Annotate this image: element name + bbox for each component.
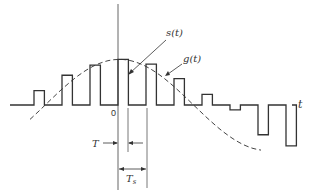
sample-pulse — [90, 65, 100, 105]
sample-pulse — [118, 59, 128, 105]
pulse-width-arrowhead-right-icon — [128, 141, 133, 145]
sample-pulse — [230, 105, 240, 110]
sample-pulse — [286, 105, 296, 146]
pulse-group — [34, 59, 296, 145]
pulse-width-arrowhead-left-icon — [113, 141, 118, 145]
sampling-period-arrowhead-right-icon — [141, 167, 146, 171]
origin-label: 0 — [111, 108, 116, 118]
continuous-signal-pointer — [168, 64, 182, 74]
sampled-signal-diagram: t 0 s(t) g(t) T Ts — [0, 0, 310, 193]
sample-pulse — [258, 105, 268, 135]
sample-pulse — [202, 94, 212, 105]
sampling-period-label: Ts — [126, 173, 137, 186]
sample-pulse — [62, 75, 72, 105]
pulse-width-label: T — [92, 138, 100, 149]
sample-pulse — [34, 91, 44, 105]
continuous-signal-label: g(t) — [183, 53, 201, 64]
sampling-period-arrowhead-left-icon — [119, 167, 124, 171]
continuous-signal-arrowhead-icon — [165, 71, 170, 76]
sampled-signal-label: s(t) — [166, 27, 183, 38]
sampled-signal-s-pulses — [10, 59, 296, 145]
sample-pulse — [146, 64, 156, 105]
time-axis-label: t — [298, 98, 303, 111]
